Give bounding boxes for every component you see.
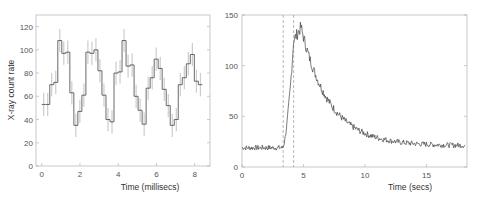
right-x-tick-label: 15: [422, 171, 431, 180]
left-x-tick-label: 2: [78, 170, 83, 179]
left-x-axis-title: Time (millisecs): [121, 182, 180, 192]
right-y-tick-label: 150: [225, 11, 239, 20]
right-light-curve: [242, 22, 465, 150]
right-x-tick-label: 0: [240, 171, 245, 180]
left-y-tick-label: 120: [20, 23, 34, 32]
left-panel: 020406080100120 02468 Time (millisecs) X…: [6, 15, 210, 192]
left-step-curve: [42, 41, 203, 126]
right-x-tick-label: 5: [301, 171, 306, 180]
right-y-tick-label: 100: [225, 62, 239, 71]
left-y-tick-label: 100: [20, 46, 34, 55]
left-y-tick-label: 0: [29, 162, 34, 171]
left-y-tick-label: 20: [24, 139, 33, 148]
figure: 020406080100120 02468 Time (millisecs) X…: [0, 0, 480, 203]
left-x-tick-label: 8: [192, 170, 197, 179]
left-plot-frame: [36, 15, 210, 166]
left-x-tick-label: 4: [116, 170, 121, 179]
right-y-tick-label: 50: [229, 112, 238, 121]
left-x-ticks: 02468: [40, 163, 198, 179]
left-y-ticks: 020406080100120: [20, 23, 210, 171]
right-vertical-markers: [283, 15, 293, 167]
left-y-axis-title: X-ray count rate: [6, 59, 16, 120]
left-x-tick-label: 0: [40, 170, 45, 179]
right-panel: 050100150 051015 Time (secs): [225, 11, 467, 192]
right-x-ticks: 051015: [240, 164, 432, 180]
right-x-axis-title: Time (secs): [388, 182, 432, 192]
right-x-tick-label: 10: [360, 171, 369, 180]
left-x-tick-label: 6: [154, 170, 159, 179]
right-plot-frame: [242, 15, 467, 167]
left-y-tick-label: 40: [24, 116, 33, 125]
right-y-tick-label: 0: [234, 163, 239, 172]
left-y-tick-label: 80: [24, 69, 33, 78]
left-y-tick-label: 60: [24, 92, 33, 101]
